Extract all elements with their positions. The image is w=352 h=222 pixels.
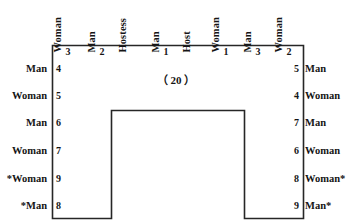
right-seat-number-4: 6 xyxy=(286,146,299,156)
right-seat-label-2: Woman xyxy=(305,91,340,102)
left-seat-label-2: Woman xyxy=(12,91,47,102)
left-seat-label-1: Man xyxy=(26,64,47,75)
left-seat-number-3: 6 xyxy=(56,118,61,128)
right-seat-number-5: 8 xyxy=(286,174,299,184)
top-seat-number-5: 3 xyxy=(248,47,268,57)
right-seat-label-4: Woman xyxy=(305,146,340,157)
right-seat-label-3: Man xyxy=(305,118,326,129)
top-seat-number-1: 3 xyxy=(58,47,78,57)
top-seat-label-5: Host xyxy=(182,31,193,52)
top-seat-number-4: 1 xyxy=(216,47,236,57)
top-seat-number-6: 2 xyxy=(279,47,299,57)
right-seat-label-5: Woman* xyxy=(305,174,345,185)
left-seat-number-6: 8 xyxy=(56,201,61,211)
center-caption: （ 20 ） xyxy=(0,75,352,86)
right-seat-label-6: Man* xyxy=(305,201,331,212)
right-seat-number-1: 5 xyxy=(286,64,299,74)
left-seat-label-5: *Woman xyxy=(7,174,47,185)
right-seat-number-2: 4 xyxy=(286,91,299,101)
right-seat-number-3: 7 xyxy=(286,118,299,128)
right-seat-number-6: 9 xyxy=(286,201,299,211)
right-seat-label-1: Man xyxy=(305,64,326,75)
left-seat-number-4: 7 xyxy=(56,146,61,156)
left-seat-label-4: Woman xyxy=(12,146,47,157)
left-seat-label-6: *Man xyxy=(21,201,47,212)
top-seat-label-3: Hostess xyxy=(118,18,129,53)
top-seat-number-3: 1 xyxy=(156,47,176,57)
left-seat-number-2: 5 xyxy=(56,91,61,101)
left-seat-number-5: 9 xyxy=(56,174,61,184)
seating-chart-diagram: Woman Man Hostess Man Host Woman Man Wom… xyxy=(0,0,352,222)
top-seat-number-2: 2 xyxy=(92,47,112,57)
left-seat-label-3: Man xyxy=(26,118,47,129)
left-seat-number-1: 4 xyxy=(56,64,61,74)
